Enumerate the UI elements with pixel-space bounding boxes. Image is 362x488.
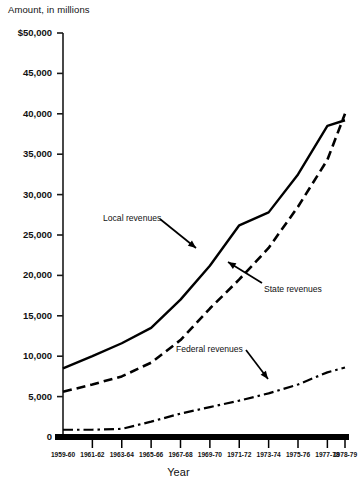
y-tick-label: 0 — [0, 431, 52, 442]
annotation-arrows — [160, 219, 268, 379]
y-tick-label: 40,000 — [0, 108, 52, 119]
series-label-state-revenues: State revenues — [264, 284, 322, 294]
x-axis-title: Year — [0, 466, 357, 478]
x-axis — [55, 434, 349, 448]
y-tick-label: 30,000 — [0, 189, 52, 200]
series-line-federal-revenues — [63, 368, 345, 430]
series-line-local-revenues — [63, 120, 345, 368]
y-tick-label: 35,000 — [0, 148, 52, 159]
y-tick-label: $50,000 — [0, 27, 52, 38]
y-tick-label: 45,000 — [0, 67, 52, 78]
y-tick-label: 10,000 — [0, 350, 52, 361]
y-tick-label: 5,000 — [0, 391, 52, 402]
y-tick-label: 25,000 — [0, 229, 52, 240]
y-tick-label: 20,000 — [0, 269, 52, 280]
y-tick-label: 15,000 — [0, 310, 52, 321]
x-tick-label: 1978-79 — [325, 451, 362, 458]
series-lines — [63, 114, 345, 430]
y-axis — [57, 33, 63, 437]
series-label-federal-revenues: Federal revenues — [176, 344, 243, 354]
series-label-local-revenues: Local revenues — [103, 213, 161, 223]
